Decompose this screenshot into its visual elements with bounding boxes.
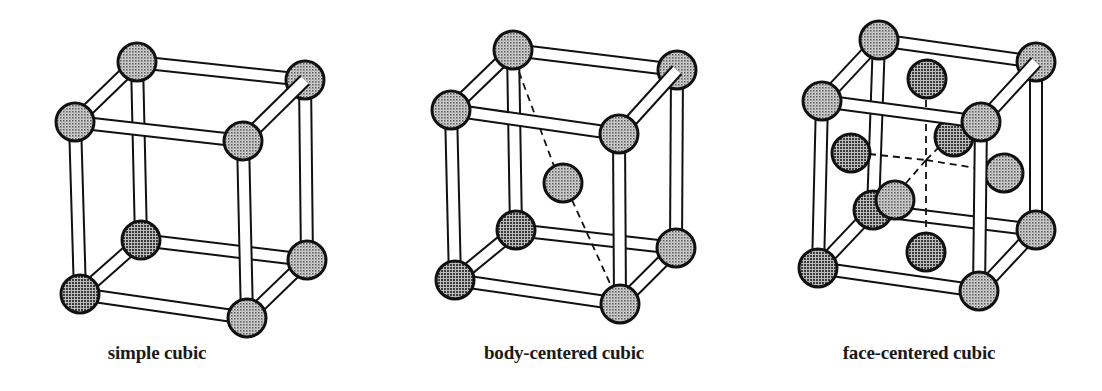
rod-back-left-vertical: [137, 62, 141, 240]
corner-atom-bottom-back-left: [497, 211, 535, 249]
face-centered-cubic-cell: [799, 21, 1055, 310]
corner-atom-bottom-back-right: [657, 229, 695, 267]
corner-atom-bottom-front-left: [61, 275, 99, 313]
rod-bottom-back: [516, 230, 676, 248]
simple-cubic-label: simple cubic: [108, 342, 206, 364]
corner-atom-bottom-front-right: [601, 285, 639, 323]
corner-atom-top-front-right: [224, 122, 262, 160]
corner-atom-top-back-left: [494, 31, 532, 69]
corner-atom-top-front-left: [803, 82, 841, 120]
rod-front-left-vertical: [75, 122, 80, 294]
body-centered-cubic-cell: [432, 31, 696, 323]
crystal-lattice-figure: simple cubic body-centered cubic face-ce…: [0, 0, 1102, 391]
rod-front-right-vertical: [979, 122, 981, 291]
corner-atom-top-back-left: [860, 21, 898, 59]
lattice-drawing: [0, 0, 1102, 391]
corner-atom-top-front-right: [962, 103, 1000, 141]
rod-top-back: [137, 62, 305, 80]
corner-atom-top-front-right: [600, 115, 638, 153]
corner-atom-top-front-left: [56, 103, 94, 141]
rod-top-back: [513, 50, 677, 70]
body-center-atom: [544, 164, 582, 202]
front-face-atom: [876, 181, 914, 219]
rod-back-left-vertical: [873, 40, 879, 210]
rod-top-front: [75, 122, 243, 141]
simple-cubic-cell: [56, 43, 326, 337]
rod-front-left-vertical: [818, 101, 822, 268]
body-centered-cubic-label: body-centered cubic: [484, 342, 644, 364]
right-face-atom: [985, 154, 1023, 192]
bottom-face-atom: [907, 233, 945, 271]
rod-top-back: [879, 40, 1036, 62]
rod-bottom-front: [818, 268, 979, 291]
rod-back-right-vertical: [676, 70, 677, 248]
rod-top-front: [451, 110, 619, 134]
rod-front-right-vertical: [619, 134, 620, 304]
corner-atom-bottom-back-right: [288, 241, 326, 279]
dashed-guide-line: [906, 160, 926, 183]
rod-front-left-vertical: [451, 110, 455, 280]
rod-bottom-front: [80, 294, 247, 318]
left-face-atom: [832, 134, 870, 172]
top-face-atom: [908, 60, 946, 98]
corner-atom-bottom-back-left: [122, 221, 160, 259]
rod-front-right-vertical: [243, 141, 247, 318]
rod-top-front: [822, 101, 981, 122]
corner-atom-top-back-left: [118, 43, 156, 81]
corner-atom-bottom-front-left: [799, 249, 837, 287]
face-centered-cubic-label: face-centered cubic: [843, 342, 996, 364]
corner-atom-top-front-left: [432, 91, 470, 129]
rod-bottom-front: [455, 280, 620, 304]
rod-back-left-vertical: [513, 50, 516, 230]
corner-atom-bottom-front-right: [960, 272, 998, 310]
rod-bottom-back: [141, 240, 307, 260]
corner-atom-bottom-front-left: [436, 261, 474, 299]
corner-atom-bottom-front-right: [228, 299, 266, 337]
rod-back-right-vertical: [305, 80, 307, 260]
corner-atom-bottom-back-right: [1017, 211, 1055, 249]
